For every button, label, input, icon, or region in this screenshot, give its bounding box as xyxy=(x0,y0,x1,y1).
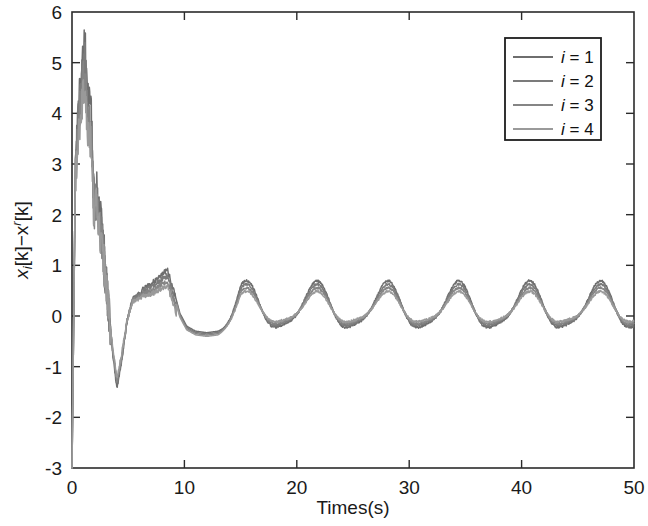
y-tick-label: 2 xyxy=(51,205,62,226)
x-axis-label: Times(s) xyxy=(316,497,389,518)
legend-label-4: i = 4 xyxy=(561,120,594,139)
y-tick-label: 5 xyxy=(51,53,62,74)
legend-label-3: i = 3 xyxy=(561,96,594,115)
figure-container: 01020304050 -3-2-10123456 Times(s) xi[k]… xyxy=(0,0,648,526)
y-tick-label: 6 xyxy=(51,2,62,23)
x-tick-label: 30 xyxy=(399,477,420,498)
y-tick-label: 3 xyxy=(51,154,62,175)
x-tick-label: 40 xyxy=(511,477,532,498)
y-tick-label: 4 xyxy=(51,103,62,124)
y-tick-label: 1 xyxy=(51,255,62,276)
legend: i = 1i = 2i = 3i = 4 xyxy=(505,38,601,140)
y-tick-label: 0 xyxy=(51,306,62,327)
x-tick-label: 50 xyxy=(623,477,644,498)
tracking-error-line-chart: 01020304050 -3-2-10123456 Times(s) xi[k]… xyxy=(0,0,648,526)
x-tick-label: 10 xyxy=(174,477,195,498)
x-tick-label: 20 xyxy=(286,477,307,498)
x-tick-label: 0 xyxy=(67,477,78,498)
legend-label-2: i = 2 xyxy=(561,72,594,91)
y-tick-label: -3 xyxy=(45,458,62,479)
y-tick-label: -1 xyxy=(45,357,62,378)
legend-label-1: i = 1 xyxy=(561,48,594,67)
y-tick-label: -2 xyxy=(45,407,62,428)
